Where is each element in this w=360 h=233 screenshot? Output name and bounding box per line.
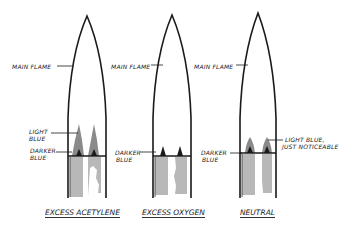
darker-blue-label-1-line2: BLUE — [30, 154, 46, 161]
light-blue-label-1-line2: BLUE — [29, 135, 45, 142]
darker-blue-label-2-line1: DARKER — [115, 149, 141, 156]
light-blue-note-line2: JUST NOTICEABLE — [282, 143, 339, 150]
caption-excess-acetylene: EXCESS ACETYLENE — [45, 208, 120, 218]
flame-neutral — [230, 13, 283, 198]
darker-blue-label-2-line2: BLUE — [116, 156, 132, 163]
flame-diagram: MAIN FLAME LIGHT BLUE DARKER BLUE MAIN F… — [0, 0, 360, 233]
flame-drawings — [0, 0, 360, 233]
darker-blue-label-3-line1: DARKER — [201, 149, 227, 156]
darker-blue-label-1-line1: DARKER — [30, 147, 56, 154]
light-blue-label-1-line1: LIGHT — [29, 128, 48, 135]
main-flame-label-1: MAIN FLAME — [12, 63, 51, 70]
flame-excess-acetylene — [51, 16, 106, 198]
light-blue-note-line1: LIGHT BLUE, — [285, 136, 325, 143]
main-flame-label-3: MAIN FLAME — [194, 63, 233, 70]
caption-neutral: NEUTRAL — [240, 208, 275, 218]
main-flame-label-2: MAIN FLAME — [111, 63, 150, 70]
flame-excess-oxygen — [140, 15, 191, 198]
caption-excess-oxygen: EXCESS OXYGEN — [142, 208, 205, 218]
darker-blue-label-3-line2: BLUE — [202, 156, 218, 163]
